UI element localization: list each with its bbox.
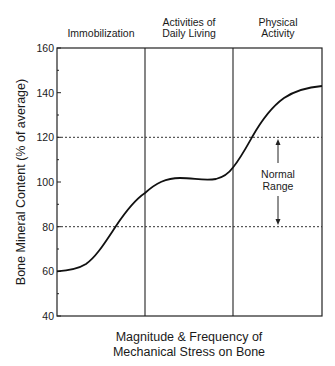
arrow-down-icon [276,219,281,225]
normal-range-label-line1: Normal [261,168,295,180]
region-label-physical-line2: Activity [261,27,295,39]
y-tick-label-40: 40 [42,310,54,322]
arrow-up-icon [276,139,281,145]
y-tick-label-60: 60 [42,265,54,277]
y-tick-label-80: 80 [42,221,54,233]
region-label-immobilization: Immobilization [67,27,134,39]
x-axis-title-line1: Magnitude & Frequency of [116,330,263,344]
normal-range-label-line2: Range [263,180,294,192]
y-tick-label-160: 160 [36,42,54,54]
y-tick-label-140: 140 [36,87,54,99]
region-label-daily-living-line2: Daily Living [162,27,216,39]
y-tick-label-100: 100 [36,176,54,188]
x-axis-title-line2: Mechanical Stress on Bone [113,345,265,359]
y-tick-label-120: 120 [36,131,54,143]
normal-range-annotation: Normal Range [261,139,295,225]
y-axis-title: Bone Mineral Content (% of average) [14,79,28,285]
chart: Immobilization Activities of Daily Livin… [0,0,335,366]
